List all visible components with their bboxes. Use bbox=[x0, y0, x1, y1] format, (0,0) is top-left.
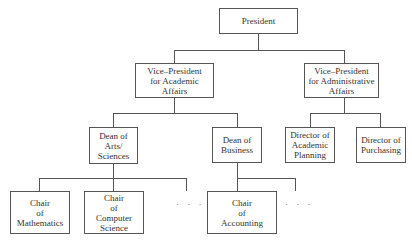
node-label: Affairs bbox=[329, 86, 354, 96]
node-director-purchasing: Director of Purchasing bbox=[356, 127, 406, 163]
node-label: Dean of bbox=[99, 131, 128, 141]
node-label: Dean of bbox=[223, 135, 252, 145]
node-label: Purchasing bbox=[361, 145, 401, 155]
connector-to-vp-academic bbox=[174, 50, 175, 63]
ellipsis-more-business-chairs: · · · bbox=[285, 199, 314, 209]
node-label: for Administrative bbox=[308, 76, 374, 86]
node-chair-mathematics: Chair of Mathematics bbox=[10, 191, 70, 234]
connector-vp-admin-down bbox=[344, 97, 345, 113]
connector-business-chairs-bar bbox=[237, 178, 296, 179]
node-vp-admin: Vice–President for Administrative Affair… bbox=[304, 63, 379, 98]
connector-to-chair-math bbox=[39, 178, 40, 191]
node-label: of bbox=[36, 208, 44, 218]
node-label: Mathematics bbox=[17, 218, 64, 228]
node-dean-business: Dean of Business bbox=[212, 127, 262, 163]
node-label: Vice–President bbox=[314, 66, 368, 76]
node-label: Academic bbox=[292, 140, 328, 150]
node-label: Planning bbox=[294, 150, 326, 160]
node-label: Director of bbox=[361, 135, 401, 145]
node-label: Vice–President bbox=[147, 66, 201, 76]
node-dean-arts: Dean of Arts/ Sciences bbox=[89, 127, 138, 164]
node-director-academic-planning: Director of Academic Planning bbox=[285, 127, 335, 163]
connector-dean-arts-down bbox=[113, 163, 114, 178]
node-president: President bbox=[219, 8, 298, 34]
node-label: of bbox=[238, 208, 246, 218]
node-label: Chair bbox=[232, 198, 252, 208]
connector-deans-bar bbox=[113, 113, 238, 114]
connector-to-more-business bbox=[295, 178, 296, 191]
connector-to-dir-purchasing bbox=[380, 113, 381, 127]
node-label: Director of bbox=[290, 130, 330, 140]
node-label: Accounting bbox=[221, 218, 263, 228]
connector-to-dean-arts bbox=[113, 113, 114, 127]
connector-directors-bar bbox=[310, 113, 381, 114]
node-label: Affairs bbox=[162, 86, 187, 96]
node-vp-academic: Vice–President for Academic Affairs bbox=[135, 63, 214, 98]
node-label: President bbox=[242, 16, 276, 26]
node-label: of bbox=[110, 203, 118, 213]
connector-to-dean-business bbox=[237, 113, 238, 127]
node-label: Chair bbox=[30, 198, 50, 208]
connector-to-more-arts bbox=[186, 178, 187, 191]
node-label: Science bbox=[100, 223, 128, 233]
connector-to-chair-accounting bbox=[237, 178, 238, 191]
node-label: Sciences bbox=[98, 151, 130, 161]
connector-president-down bbox=[258, 33, 259, 50]
node-label: for Academic bbox=[150, 76, 199, 86]
node-label: Chair bbox=[104, 193, 124, 203]
connector-level1-bar bbox=[174, 50, 345, 51]
ellipsis-more-arts-chairs: · · · bbox=[176, 199, 205, 209]
node-label: Computer bbox=[96, 213, 132, 223]
connector-vp-academic-down bbox=[174, 97, 175, 113]
connector-to-chair-cs bbox=[113, 178, 114, 191]
node-chair-accounting: Chair of Accounting bbox=[207, 191, 277, 234]
connector-dean-business-down bbox=[237, 162, 238, 178]
connector-to-dir-academic bbox=[310, 113, 311, 127]
node-label: Arts/ bbox=[105, 141, 123, 151]
node-chair-computer-science: Chair of Computer Science bbox=[84, 191, 144, 234]
node-label: Business bbox=[221, 145, 253, 155]
connector-to-vp-admin bbox=[344, 50, 345, 63]
